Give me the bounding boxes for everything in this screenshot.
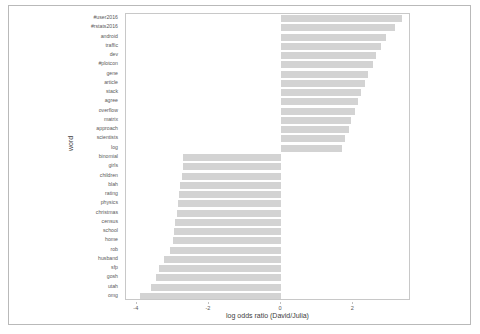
bar [281,117,351,124]
y-axis-tick-label: physics [101,199,118,206]
y-axis-tick-label: christmas [96,209,118,216]
bar [183,154,281,161]
y-axis-tick-label: gosh [107,273,118,280]
bar [174,228,281,235]
bar [164,256,281,263]
chart-panel [125,13,410,300]
x-axis-tick-label: 2 [351,305,354,311]
y-axis-tick-label: agree [105,97,118,104]
bar [182,173,281,180]
y-axis-tick-labels: #user2016#rstats2016androidtrafficdev#pl… [0,13,122,300]
bar [281,43,381,50]
y-axis-tick-label: blah [108,181,118,188]
y-axis-tick-label: husband [98,255,118,262]
x-axis-tick-label: 0 [279,305,282,311]
y-axis-tick-label: #user2016 [93,14,118,21]
bar [159,265,281,272]
x-axis-title: log odds ratio (David/Julia) [125,312,410,319]
bar [281,61,373,68]
bar [281,15,402,22]
bar [281,24,395,31]
y-axis-tick-label: log [111,144,118,151]
y-axis-tick-label: census [102,218,118,225]
bar [179,191,281,198]
y-axis-tick-label: gene [106,70,118,77]
bar [170,247,281,254]
bar [180,182,281,189]
bar [281,126,349,133]
y-axis-tick-label: scientists [97,134,118,141]
y-axis-tick-label: rating [105,190,118,197]
x-axis-tick-label: -2 [205,305,210,311]
y-axis-tick-label: android [101,33,118,40]
y-axis-tick-label: approach [96,125,118,132]
bar [281,80,365,87]
bar [173,237,281,244]
bar [281,145,342,152]
bar [281,52,376,59]
y-axis-tick-label: rob [111,246,119,253]
y-axis-tick-label: girls [108,162,118,169]
x-axis-tick-mark [280,302,281,304]
y-axis-tick-label: matrix [104,116,118,123]
bar [156,274,282,281]
x-axis-tick-mark [208,302,209,304]
bar [175,219,281,226]
x-axis-tick-mark [352,302,353,304]
chart-plot-area: #user2016#rstats2016androidtrafficdev#pl… [0,0,480,334]
bar [178,200,281,207]
bar [177,210,282,217]
bar [151,284,281,291]
y-axis-tick-label: article [104,79,118,86]
bar [281,89,361,96]
y-axis-tick-label: traffic [105,42,118,49]
bar [281,98,357,105]
y-axis-tick-label: children [100,172,118,179]
y-axis-tick-label: overflow [99,107,118,114]
y-axis-tick-label: #rstats2016 [91,23,118,30]
y-axis-tick-label: omg [108,292,118,299]
y-axis-tick-label: home [105,236,118,243]
bar [281,34,386,41]
y-axis-tick-label: sfp [111,264,118,271]
bar [281,108,355,115]
y-axis-tick-label: #plotcon [98,60,118,67]
y-axis-title: word [67,129,74,159]
y-axis-tick-label: dev [110,51,118,58]
bar [281,135,345,142]
y-axis-tick-label: stack [106,88,118,95]
y-axis-tick-label: binomial [99,153,118,160]
bar [281,71,368,78]
bar [183,163,281,170]
x-axis-tick-label: -4 [133,305,138,311]
y-axis-tick-label: utah [108,283,118,290]
y-axis-tick-label: school [103,227,118,234]
x-axis-tick-mark [136,302,137,304]
bar [140,293,281,300]
